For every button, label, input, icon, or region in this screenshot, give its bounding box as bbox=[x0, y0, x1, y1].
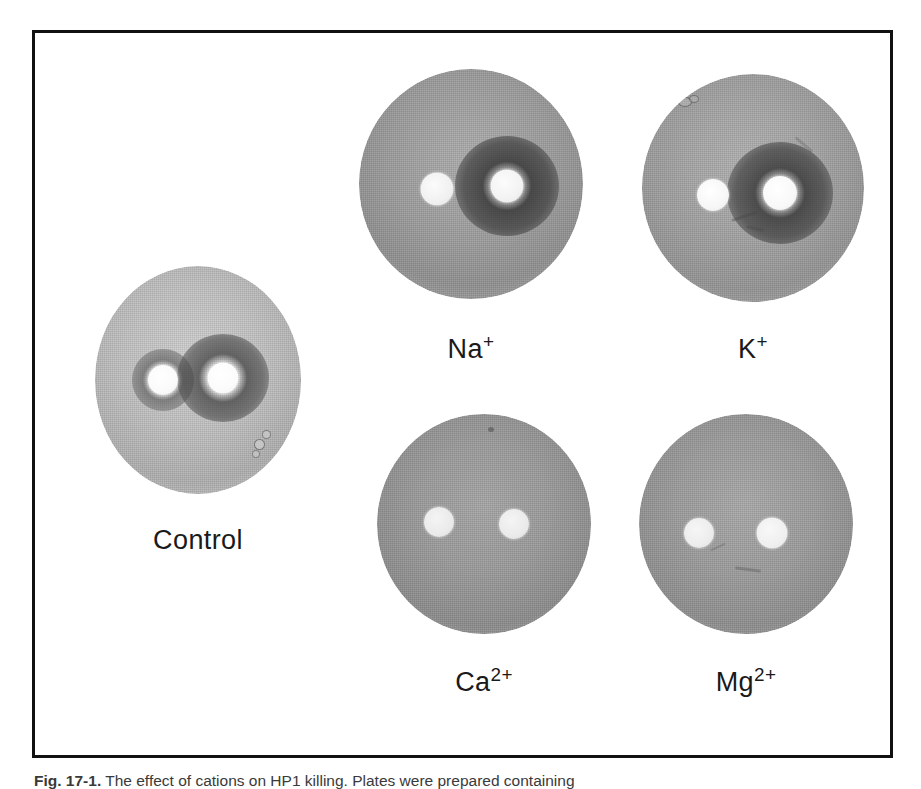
figure-caption-label: Fig. 17-1. bbox=[34, 772, 101, 789]
plate-label-text: Na bbox=[448, 334, 483, 364]
antibiotic-disc-calcium-left bbox=[424, 507, 454, 537]
plate-label-sodium: Na+ bbox=[341, 334, 601, 365]
antibiotic-disc-potassium-right bbox=[763, 176, 797, 210]
petri-dish-magnesium bbox=[622, 396, 870, 652]
plate-label-text: Control bbox=[153, 525, 243, 555]
plate-label-text: Mg bbox=[716, 667, 754, 697]
antibiotic-disc-sodium-left bbox=[421, 172, 454, 205]
antibiotic-disc-magnesium-left bbox=[684, 518, 714, 548]
plate-label-text: Ca bbox=[455, 667, 490, 697]
figure-panel: Control Na+ bbox=[32, 30, 893, 758]
antibiotic-disc-sodium-right bbox=[490, 170, 523, 203]
plate-label-superscript: + bbox=[483, 331, 494, 352]
plate-label-superscript: 2+ bbox=[754, 664, 776, 685]
antibiotic-disc-control-right bbox=[207, 362, 238, 393]
dish-rim-calcium bbox=[360, 396, 608, 652]
plate-label-text: K bbox=[738, 334, 756, 364]
petri-dish-calcium bbox=[360, 396, 608, 652]
petri-dish-control bbox=[78, 248, 318, 512]
plate-label-control: Control bbox=[78, 525, 318, 556]
petri-dish-potassium bbox=[624, 56, 882, 320]
plate-label-superscript: + bbox=[756, 331, 767, 352]
plate-label-magnesium: Mg2+ bbox=[622, 667, 870, 698]
dish-rim-magnesium bbox=[622, 396, 870, 652]
petri-dish-sodium bbox=[341, 50, 601, 318]
figure-caption: Fig. 17-1. The effect of cations on HP1 … bbox=[34, 770, 914, 789]
antibiotic-disc-control-left bbox=[148, 365, 178, 395]
plate-label-potassium: K+ bbox=[624, 334, 882, 365]
antibiotic-disc-calcium-right bbox=[499, 509, 529, 539]
plate-label-calcium: Ca2+ bbox=[360, 667, 608, 698]
plate-label-superscript: 2+ bbox=[490, 664, 512, 685]
antibiotic-disc-potassium-left bbox=[697, 179, 729, 211]
antibiotic-disc-magnesium-right bbox=[756, 517, 787, 548]
figure-caption-text: The effect of cations on HP1 killing. Pl… bbox=[105, 772, 574, 789]
